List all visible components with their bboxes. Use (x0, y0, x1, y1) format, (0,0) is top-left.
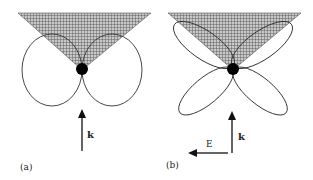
e-field-arrow-b (188, 149, 228, 157)
panel-label-a: (a) (20, 162, 32, 172)
diagram-canvas: k (a) k E (b) (0, 0, 313, 180)
panel-b: k E (b) (166, 13, 301, 170)
particle-dot-b (227, 63, 239, 75)
panel-a: k (a) (18, 13, 151, 172)
panel-label-b: (b) (166, 160, 179, 170)
tip-cone-a (18, 13, 151, 70)
k-label-a: k (87, 129, 95, 140)
k-label-b: k (238, 131, 246, 142)
k-arrow-a (78, 109, 86, 151)
k-arrow-b (228, 111, 236, 153)
particle-dot-a (76, 63, 88, 75)
lobe-left-a (22, 34, 82, 106)
e-label-b: E (206, 139, 213, 149)
